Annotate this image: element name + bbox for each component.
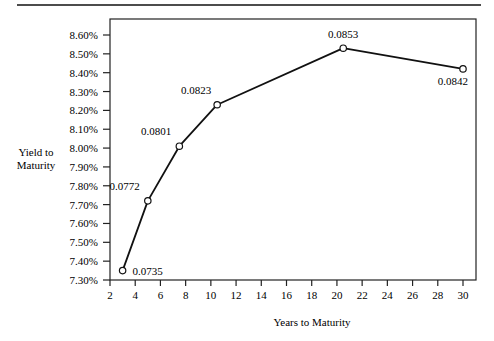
data-points: 0.07350.07720.08010.08230.08530.0842 [110,28,468,276]
y-tick-label: 7.40% [70,255,98,267]
yield-line [123,48,463,270]
data-point-marker [119,267,125,273]
x-tick-label: 6 [158,289,164,301]
y-tick-label: 8.00% [70,142,98,154]
data-point-marker [460,66,466,72]
x-tick-label: 12 [231,289,242,301]
x-tick-label: 16 [281,289,293,301]
x-tick-label: 18 [306,289,318,301]
data-point-label: 0.0801 [141,125,171,137]
y-tick-label: 8.40% [70,67,98,79]
y-axis-ticks: 7.30%7.40%7.50%7.60%7.70%7.80%7.90%8.00%… [70,29,110,286]
data-point-marker [176,143,182,149]
y-tick-label: 7.80% [70,180,98,192]
x-axis-ticks: 24681012141618202224262830 [107,280,469,301]
y-axis-title-line2: Maturity [17,159,56,171]
x-tick-label: 4 [132,289,138,301]
x-tick-label: 30 [458,289,470,301]
x-tick-label: 20 [331,289,343,301]
x-tick-label: 10 [205,289,217,301]
x-axis-title: Years to Maturity [273,316,351,328]
x-tick-label: 2 [107,289,113,301]
x-tick-label: 26 [407,289,419,301]
y-tick-label: 8.30% [70,86,98,98]
data-point-marker [340,45,346,51]
y-tick-label: 7.30% [70,274,98,286]
plot-frame [110,19,476,280]
x-tick-label: 8 [183,289,189,301]
data-point-label: 0.0842 [438,75,468,87]
data-point-marker [145,198,151,204]
data-point-marker [214,102,220,108]
y-tick-label: 8.50% [70,48,98,60]
yield-curve-chart: 7.30%7.40%7.50%7.60%7.70%7.80%7.90%8.00%… [0,0,494,341]
data-point-label: 0.0853 [328,28,359,40]
y-tick-label: 8.60% [70,29,98,41]
data-point-label: 0.0823 [181,84,212,96]
x-tick-label: 22 [357,289,368,301]
y-tick-label: 7.90% [70,161,98,173]
data-point-label: 0.0735 [133,265,164,277]
y-axis-title-line1: Yield to [18,146,54,158]
x-tick-label: 14 [256,289,268,301]
x-tick-label: 24 [382,289,394,301]
y-tick-label: 8.20% [70,104,98,116]
x-tick-label: 28 [432,289,444,301]
data-point-label: 0.0772 [110,180,140,192]
y-tick-label: 7.50% [70,236,98,248]
y-tick-label: 7.70% [70,199,98,211]
y-tick-label: 8.10% [70,123,98,135]
y-tick-label: 7.60% [70,217,98,229]
